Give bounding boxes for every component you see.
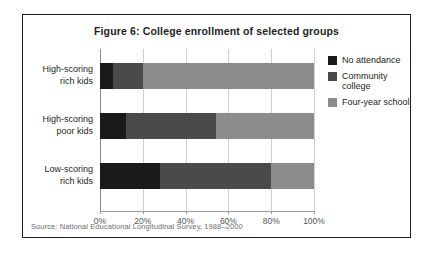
legend-swatch-icon	[328, 72, 337, 81]
category-label-line1: High-scoring	[19, 114, 93, 126]
plot-area: High-scoringrich kidsHigh-scoringpoor ki…	[100, 49, 314, 211]
bar-segment	[126, 113, 216, 139]
legend-swatch-icon	[328, 98, 337, 107]
bar-segment	[113, 63, 143, 89]
bar-row: High-scoringrich kids	[100, 63, 314, 89]
legend-item-label: Four-year school	[342, 97, 410, 108]
bar-row: Low-scoringrich kids	[100, 163, 314, 189]
category-label-line1: High-scoring	[19, 64, 93, 76]
category-label-line2: rich kids	[19, 76, 93, 88]
category-label: High-scoringrich kids	[19, 64, 93, 87]
x-tick-label: 80%	[263, 216, 280, 226]
category-label-line2: rich kids	[19, 176, 93, 188]
x-tick-label: 100%	[303, 216, 325, 226]
legend-item: Four-year school	[328, 97, 410, 108]
x-tick-mark	[228, 211, 229, 214]
legend-item-label: Community college	[342, 71, 410, 92]
category-label: High-scoringpoor kids	[19, 114, 93, 137]
legend-swatch-icon	[328, 56, 337, 65]
legend-item: Community college	[328, 71, 410, 92]
bar-row: High-scoringpoor kids	[100, 113, 314, 139]
source-note: Source: National Educational Longitudina…	[31, 222, 243, 231]
bar-segment	[100, 163, 160, 189]
chart-legend: No attendanceCommunity collegeFour-year …	[328, 55, 410, 112]
category-label-line2: poor kids	[19, 126, 93, 138]
x-axis-line	[100, 211, 314, 212]
bar-segment	[100, 63, 113, 89]
bar-segment	[271, 163, 314, 189]
bar-segment	[216, 113, 314, 139]
category-label-line1: Low-scoring	[19, 164, 93, 176]
category-label: Low-scoringrich kids	[19, 164, 93, 187]
legend-item-label: No attendance	[342, 55, 401, 66]
bar-segment	[143, 63, 314, 89]
figure-title: Figure 6: College enrollment of selected…	[23, 25, 410, 37]
x-tick-mark	[143, 211, 144, 214]
legend-item: No attendance	[328, 55, 410, 66]
x-tick-mark	[314, 211, 315, 214]
bar-segment	[100, 113, 126, 139]
gridline-100pct	[314, 49, 315, 211]
x-tick-mark	[271, 211, 272, 214]
bar-segment	[160, 163, 271, 189]
figure-panel: Figure 6: College enrollment of selected…	[22, 14, 411, 238]
x-tick-mark	[186, 211, 187, 214]
x-tick-mark	[100, 211, 101, 214]
